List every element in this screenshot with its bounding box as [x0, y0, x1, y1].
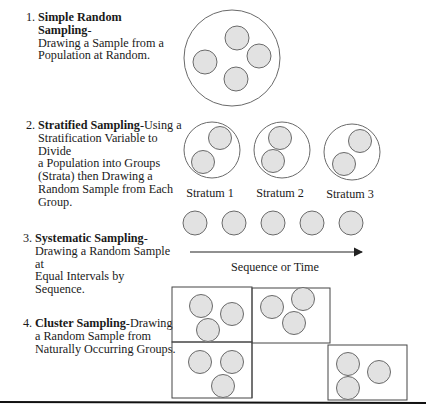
cluster-member — [261, 296, 284, 319]
cluster-member — [292, 288, 315, 311]
sample-circle — [262, 150, 285, 173]
sample-circle — [333, 153, 356, 176]
sample-circle — [224, 67, 248, 91]
cluster-member — [221, 303, 244, 326]
sequence-circle — [300, 211, 324, 235]
sequence-axis-label: Sequence or Time — [231, 260, 319, 274]
cluster-member — [197, 319, 220, 342]
stratum-label-1: Stratum 1 — [186, 186, 234, 200]
sample-circle — [193, 50, 217, 74]
sequence-circle — [261, 211, 285, 235]
stratum-label-3: Stratum 3 — [326, 187, 374, 201]
cluster-member — [337, 353, 360, 376]
sample-circle — [209, 127, 232, 150]
sample-circle — [225, 26, 249, 50]
sequence-circle — [339, 211, 363, 235]
cluster-member — [221, 351, 244, 374]
cluster-member — [212, 375, 235, 398]
bottom-rule — [0, 402, 426, 403]
sampling-diagram: Stratum 1 Stratum 2 Stratum 3 Sequence o… — [0, 0, 426, 411]
sequence-circle — [222, 211, 246, 235]
cluster-member — [190, 295, 213, 318]
cluster-member — [337, 377, 360, 400]
cluster-member — [189, 351, 212, 374]
sample-circle — [269, 127, 292, 150]
cluster-member — [283, 312, 306, 335]
sample-circle — [192, 151, 215, 174]
cluster-member — [368, 361, 391, 384]
stratum-label-2: Stratum 2 — [256, 186, 304, 200]
sample-circle — [247, 44, 271, 68]
sample-circle — [349, 130, 372, 153]
sequence-circle — [183, 211, 207, 235]
